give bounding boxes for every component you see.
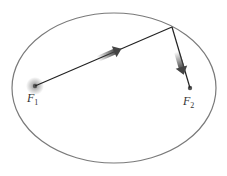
arrow-right-icon bbox=[95, 43, 124, 64]
focus1-label: F1 bbox=[27, 91, 38, 107]
focus2-label: F2 bbox=[183, 94, 194, 110]
ellipse-diagram bbox=[0, 0, 227, 176]
arrow-down-icon bbox=[171, 50, 189, 76]
